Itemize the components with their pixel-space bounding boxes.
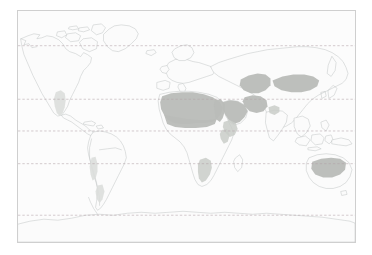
landmass-hispaniola (97, 125, 104, 129)
landmass-new-guinea (332, 138, 352, 146)
landmass-arctic-islet-b (69, 26, 79, 30)
landmass-philippines (321, 120, 329, 131)
landmass-tasmania (341, 190, 347, 195)
map-frame (17, 10, 356, 243)
landmass-ellesmere-island (92, 24, 106, 35)
landmass-arctic-islet-a (79, 27, 90, 32)
landmass-sumatra (295, 136, 310, 146)
landmass-antarctica (18, 211, 355, 242)
world-map-figure (0, 0, 372, 255)
landmass-baffin-island (80, 38, 98, 52)
landmass-india (266, 110, 288, 141)
coastline-madagascar (234, 155, 243, 172)
landmass-borneo (311, 134, 324, 145)
landmass-iceland (146, 50, 156, 56)
landmass-scandinavia (172, 45, 194, 61)
world-map-canvas (18, 11, 355, 242)
landmass-java (308, 147, 321, 151)
landmass-europe (166, 59, 215, 84)
landmasses-group (18, 24, 355, 242)
landmass-greenland (103, 25, 138, 52)
landmass-cuba (84, 121, 96, 126)
landmass-indochina (294, 116, 310, 137)
landmass-victoria-island (66, 33, 81, 42)
landmass-iberia (157, 80, 170, 90)
landmass-banks-island (57, 31, 67, 38)
